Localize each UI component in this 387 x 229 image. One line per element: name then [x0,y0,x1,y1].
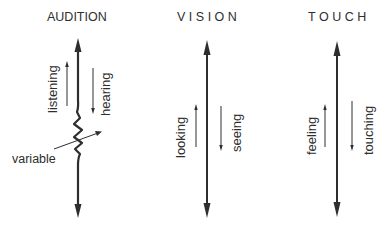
sensory-arrows-diagram [0,0,387,229]
variable-label: variable [12,152,56,166]
listening-arrow-up-icon [65,61,69,106]
seeing-arrow-down-icon [219,106,222,151]
seeing-label: seeing [229,114,244,152]
listening-label: listening [45,65,60,113]
hearing-arrow-down-icon [91,68,95,114]
feeling-label: feeling [304,117,319,155]
looking-arrow-up-icon [194,104,197,147]
touching-label: touching [361,106,376,155]
feeling-arrow-up-icon [323,104,326,147]
vision-main-arrow [204,40,211,218]
looking-label: looking [173,117,188,158]
audition-main-arrow [74,38,82,218]
hearing-label: hearing [98,73,113,116]
touch-main-arrow [334,41,341,217]
touching-arrow-down-icon [350,101,353,151]
